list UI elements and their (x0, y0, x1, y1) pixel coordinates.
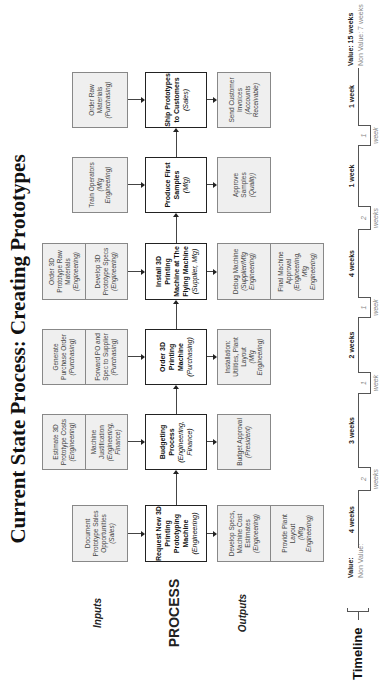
flow-line (176, 304, 177, 329)
value-segment: 1 week (346, 68, 359, 125)
value-segment: 4 weeks (346, 230, 359, 297)
output-name: Provide Plant Layout (281, 509, 297, 558)
row-label-outputs: Outputs (237, 568, 248, 658)
arrow-down-icon (213, 439, 217, 445)
timeline-label: Timeline (350, 627, 365, 680)
input-name: Estimate 3D Prototype Costs (52, 418, 68, 466)
output-name: Develop Specs, Machine Cost Estimates (228, 509, 252, 558)
input-name: Generate Purchase Order (52, 333, 68, 381)
output-role: (Quality) (248, 173, 256, 198)
arrow-down-icon (141, 531, 145, 537)
input-name: Train Operators (88, 162, 96, 207)
input-role: (Engineering, Finance) (106, 418, 122, 466)
timeline-legend: Value: Non Value: (346, 544, 366, 578)
process-role: (Purchasing) (185, 337, 194, 377)
process-name: Produce First Samples (163, 158, 181, 212)
output-role: (Supplier/Mfg Engineering) (240, 247, 256, 296)
output-name: Budget Approval (236, 418, 244, 466)
value-segment: 1 week (346, 146, 359, 206)
input-box: Document Prototype Sales Opportunities(S… (72, 505, 128, 562)
arrow-right-icon (173, 470, 179, 474)
process-role: (Engineering) (190, 512, 199, 554)
input-box: Order Raw Materials(Purchasing) (72, 72, 128, 128)
row-label-inputs: Inputs (92, 568, 103, 658)
output-box: Budget Approval(President) (217, 414, 271, 470)
output-role: (Mfg Engineering) (248, 333, 264, 381)
non-value-segment: 2 weeks (358, 206, 371, 230)
process-role: (Supplier, Mfg) (190, 249, 199, 295)
arrow-down-icon (141, 439, 145, 445)
arrow-down-icon (141, 354, 145, 360)
process-box-request: Request New 3D Printing Prototyping Mach… (145, 505, 207, 562)
input-box: Train Operators(Mfg Engineering) (72, 157, 128, 213)
input-role: (Mfg Engineering) (96, 161, 112, 209)
input-role: (Engineering) (72, 252, 80, 291)
non-value-segment: 2 weeks (358, 467, 371, 491)
input-role: (Purchasing) (68, 339, 76, 376)
output-role: (Mfg Engineering) (297, 509, 313, 558)
process-box-ship: Ship Prototypes to Customers (Sales) (145, 72, 207, 128)
value-key: Value: (346, 544, 356, 578)
process-box-install: Install 3D Printing Machine at The Flyin… (145, 243, 207, 300)
non-value-segment: 1 week (358, 125, 371, 146)
arrow-down-icon (141, 269, 145, 275)
connector-line (128, 441, 141, 442)
output-box: Installation: Utilities, Plant Layout(Mf… (217, 329, 271, 385)
input-name: Machine Justification (90, 418, 106, 466)
output-box: Send Customer Invoices(Accounts Receivab… (217, 72, 271, 128)
process-role: (Sales) (181, 89, 190, 111)
arrow-right-icon (173, 213, 179, 217)
process-name: Ship Prototypes to Customers (163, 73, 181, 127)
input-name: Order 3D Prototype Raw Materials (48, 247, 72, 296)
arrow-right-icon (173, 128, 179, 132)
output-role: (Engineering, Mfg Engineering) (293, 247, 317, 296)
input-name: Develop 3D Prototype Specs (94, 247, 110, 296)
flow-line (176, 217, 177, 243)
diagram-title: Current State Process: Creating Prototyp… (6, 0, 31, 698)
arrow-down-icon (213, 531, 217, 537)
timeline-brace-icon (358, 612, 359, 620)
flow-line (176, 474, 177, 505)
total-value: Value: 15 weeks (346, 4, 356, 66)
input-name: Document Prototype Sales Opportunities (84, 509, 108, 558)
flow-line (176, 389, 177, 414)
input-name: Order Raw Materials (88, 76, 104, 124)
connector-line (128, 99, 141, 100)
process-name: Budgeting Process (158, 415, 176, 469)
output-box: Develop Specs, Machine Cost Estimates(En… (217, 505, 324, 562)
arrow-down-icon (213, 97, 217, 103)
process-name: Order 3D Printing Machine (158, 330, 185, 384)
input-role: (Engineering) (110, 252, 118, 291)
input-box: Generate Purchase Order(Purchasing) Forw… (42, 329, 128, 385)
process-box-order: Order 3D Printing Machine (Purchasing) (145, 329, 207, 385)
input-role: (Sales) (108, 523, 116, 544)
output-role: (President) (244, 426, 252, 458)
output-box: Debug Machine(Supplier/Mfg Engineering) … (217, 243, 324, 300)
input-role: (Purchasing) (104, 82, 112, 119)
process-name: Request New 3D Printing Prototyping Mach… (154, 506, 190, 561)
output-name: Debug Machine (232, 249, 240, 295)
arrow-down-icon (213, 269, 217, 275)
process-diagram: Current State Process: Creating Prototyp… (0, 0, 384, 698)
input-name: Forward PO and Spec to Supplier (94, 333, 110, 381)
timeline-totals: Value: 15 weeks Non Value: 7 weeks (346, 4, 366, 66)
row-label-process: PROCESS (166, 568, 182, 658)
process-role: (Engineering, Finance) (176, 415, 194, 469)
arrow-down-icon (213, 182, 217, 188)
non-value-key: Non Value: (356, 544, 366, 578)
arrow-right-icon (173, 385, 179, 389)
value-segment: 2 weeks (346, 318, 359, 372)
connector-line (128, 184, 141, 185)
non-value-segment: 1 week (358, 372, 371, 394)
input-box: Order 3D Prototype Raw Materials(Enginee… (42, 243, 128, 300)
arrow-down-icon (141, 182, 145, 188)
timeline-brace-icon (347, 603, 369, 612)
output-role: (Accounts Receivable) (244, 76, 260, 124)
arrow-down-icon (141, 97, 145, 103)
output-role: (Engineering) (252, 514, 260, 553)
process-box-budgeting: Budgeting Process (Engineering, Finance) (145, 414, 207, 470)
output-name: Installation: Utilities, Plant Layout (224, 333, 248, 381)
input-box: Estimate 3D Prototype Costs(Engineering)… (42, 414, 128, 470)
output-name: Approve Samples (232, 161, 248, 209)
process-name: Install 3D Printing Machine at The Flyin… (154, 244, 190, 299)
